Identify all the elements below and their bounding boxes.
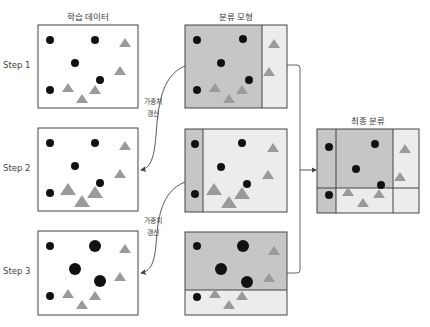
step-3-data-panel [38, 231, 138, 315]
classifier-3-panel [185, 232, 287, 315]
final-classification-panel [317, 129, 419, 213]
boosting-diagram [0, 0, 430, 327]
classifier-1-panel [185, 25, 287, 108]
combine-bracket [287, 65, 300, 273]
step-1-data-panel [38, 25, 138, 108]
step-2-data-panel [38, 128, 138, 211]
weight-update-arrow-1 [141, 66, 185, 170]
weight-update-arrow-2 [141, 182, 185, 273]
classifier-2-panel [185, 129, 287, 212]
